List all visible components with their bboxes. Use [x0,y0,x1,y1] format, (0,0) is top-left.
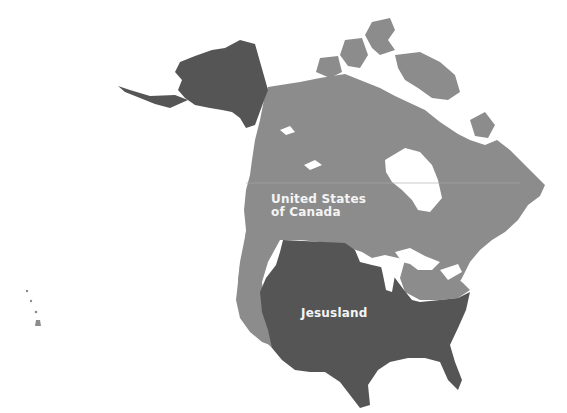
label-usc-line2: of Canada [271,206,366,219]
label-jesusland: Jesusland [301,307,368,320]
hawaii-islands [26,290,41,326]
label-united-states-of-canada: United States of Canada [271,193,366,219]
